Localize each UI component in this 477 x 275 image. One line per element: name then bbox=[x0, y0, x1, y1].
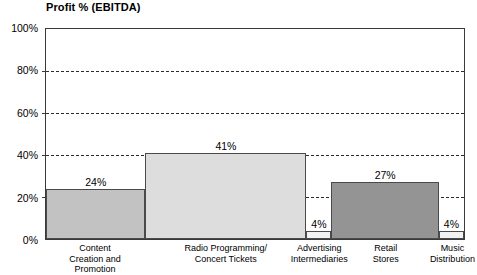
bar-2[interactable] bbox=[145, 153, 306, 239]
y-tick-label-80: 80% bbox=[17, 64, 38, 76]
chart-title: Profit % (EBITDA) bbox=[46, 1, 141, 13]
bar-value-label-4: 27% bbox=[375, 169, 396, 181]
bar-value-label-1: 24% bbox=[85, 176, 106, 188]
category-label-5: Music Distribution bbox=[430, 243, 475, 264]
bar-value-label-2: 41% bbox=[215, 140, 236, 152]
bar-1[interactable] bbox=[46, 189, 145, 239]
category-label-4: Retail Stores bbox=[373, 243, 399, 264]
bar-value-label-5: 4% bbox=[444, 218, 459, 230]
bar-value-label-3: 4% bbox=[311, 218, 326, 230]
category-label-2: Radio Programming/ Concert Tickets bbox=[185, 243, 268, 264]
y-axis: 0% 20% 40% 60% 80% 100% bbox=[0, 28, 41, 240]
plot-area: 24%41%4%27%4% bbox=[45, 28, 465, 240]
bar-series: 24%41%4%27%4% bbox=[46, 29, 464, 239]
bar-3[interactable] bbox=[306, 231, 331, 239]
y-tick-label-60: 60% bbox=[17, 107, 38, 119]
category-label-3: Advertising Intermediaries bbox=[291, 243, 348, 264]
bar-4[interactable] bbox=[331, 182, 438, 239]
y-tick-label-20: 20% bbox=[17, 192, 38, 204]
chart-container: Profit % (EBITDA) 0% 20% 40% 60% 80% 100… bbox=[0, 0, 477, 275]
y-tick-label-40: 40% bbox=[17, 149, 38, 161]
bar-5[interactable] bbox=[439, 231, 464, 239]
y-tick-label-100: 100% bbox=[11, 22, 38, 34]
x-axis-category-labels: Content Creation and PromotionRadio Prog… bbox=[0, 243, 477, 275]
category-label-1: Content Creation and Promotion bbox=[69, 243, 121, 275]
